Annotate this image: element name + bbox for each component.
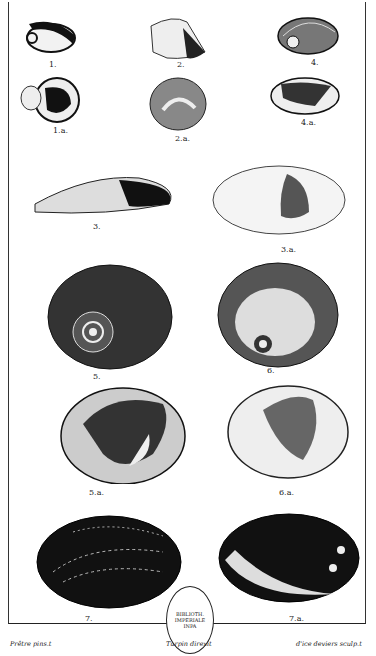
shell-figure-4a	[265, 74, 345, 119]
figure-label-5: 5.	[93, 372, 101, 381]
engraving-plate: 1. 2. 4. 1.a. 2.a. 4.a. 3. 3.a.	[8, 2, 366, 624]
credit-engraver: d'ice deviers sculp.t	[296, 640, 362, 648]
figure-label-1: 1.	[49, 60, 57, 69]
shell-figure-1	[15, 14, 85, 59]
figure-label-4: 4.	[311, 58, 319, 67]
figure-label-5a: 5.a.	[89, 488, 104, 497]
figure-label-6a: 6.a.	[279, 488, 294, 497]
figure-label-3: 3.	[93, 222, 101, 231]
figure-label-1a: 1.a.	[53, 126, 68, 135]
shell-figure-3	[29, 168, 179, 218]
figure-label-2: 2.	[177, 60, 185, 69]
credit-painter: Prêtre pins.t	[10, 640, 51, 648]
figure-label-7: 7.	[85, 614, 93, 623]
shell-figure-7	[33, 512, 183, 612]
shell-figure-5	[45, 262, 175, 372]
figure-label-3a: 3.a.	[281, 245, 296, 254]
figure-label-2a: 2.a.	[175, 134, 190, 143]
shell-figure-2a	[143, 74, 213, 134]
shell-figure-5a	[53, 384, 187, 484]
figure-label-4a: 4.a.	[301, 118, 316, 127]
shell-figure-6	[213, 260, 343, 370]
shell-figure-6a	[223, 380, 353, 480]
figure-label-7a: 7.a.	[289, 614, 304, 623]
credit-director: Turpin direxit	[166, 640, 212, 648]
shell-figure-1a	[15, 74, 85, 124]
shell-figure-3a	[209, 162, 349, 242]
shell-figure-2	[143, 14, 213, 59]
figure-label-6: 6.	[267, 366, 275, 375]
shell-figure-7a	[215, 510, 361, 610]
stamp-text: BIBLIOTH. IMPERIALE INPA	[170, 611, 210, 629]
shell-figure-4	[273, 14, 343, 59]
